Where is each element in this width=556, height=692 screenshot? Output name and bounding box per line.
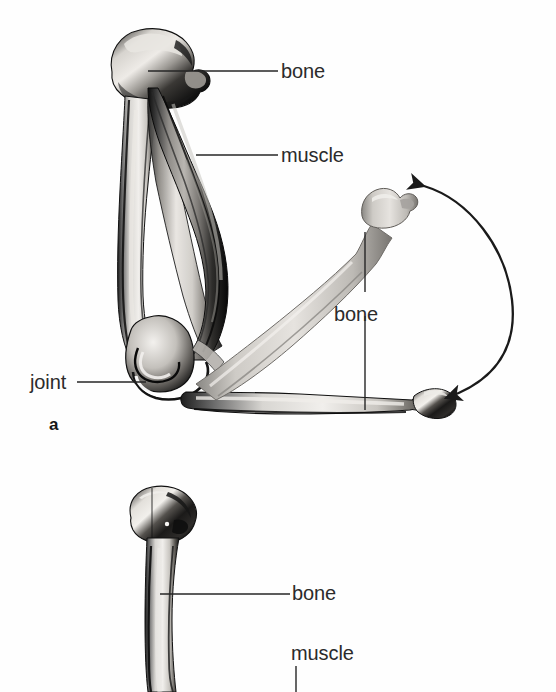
label-bone-lower-panel: bone — [292, 583, 336, 603]
label-bone-upper: bone — [281, 61, 325, 81]
figure-canvas: bone muscle bone joint a bone muscle — [0, 0, 556, 692]
upper-bone-flexed-ghost — [196, 188, 418, 400]
label-joint: joint — [30, 372, 66, 392]
range-of-motion-arrow — [424, 186, 513, 398]
label-muscle-upper: muscle — [281, 145, 344, 165]
panel-letter-a: a — [49, 415, 58, 435]
panel-b-illustration — [130, 486, 296, 692]
label-muscle-lower-panel: muscle — [291, 643, 354, 663]
panel-a-illustration — [77, 29, 513, 419]
label-bone-forearm: bone — [334, 304, 378, 324]
lower-panel-bone-head — [130, 486, 196, 543]
lower-panel-bone-shaft — [145, 538, 179, 692]
anatomy-illustration — [0, 0, 556, 692]
